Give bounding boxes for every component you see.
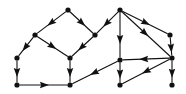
graph-node [67, 55, 72, 60]
edge-arrowhead-icon [40, 82, 49, 89]
graph-node [169, 55, 174, 60]
graph-node [117, 7, 122, 12]
graph-node [67, 82, 72, 87]
edge-arrowhead-icon [117, 35, 124, 44]
edge-arrowhead-icon [117, 70, 124, 79]
graph-node [32, 32, 37, 37]
directed-graph-figure [0, 0, 186, 94]
edge-arrowhead-icon [139, 56, 148, 62]
edge-arrowhead-icon [47, 18, 56, 26]
edge-arrowhead-icon [67, 68, 74, 77]
graph-node [117, 82, 122, 87]
edge-arrowhead-icon [142, 67, 151, 74]
node-layer [14, 7, 174, 87]
graph-node [167, 32, 172, 37]
graph-node [14, 82, 19, 87]
edge-layer [14, 11, 176, 88]
edge-arrowhead-icon [169, 69, 176, 78]
edge-arrowhead-icon [14, 68, 21, 77]
graph-node [65, 7, 70, 12]
graph-canvas [0, 0, 186, 94]
edge-arrowhead-icon [47, 41, 56, 49]
graph-node [92, 32, 97, 37]
graph-node [14, 55, 19, 60]
graph-node [117, 57, 122, 62]
graph-node [169, 82, 174, 87]
edge-arrowhead-icon [22, 42, 30, 51]
